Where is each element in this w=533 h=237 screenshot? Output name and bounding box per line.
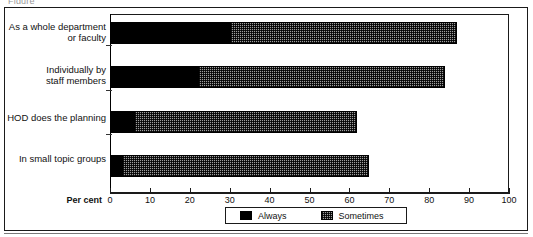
value-tick-label-40: 40 — [257, 195, 283, 205]
legend-swatch-sometimes-icon — [321, 211, 333, 220]
legend-label-always: Always — [258, 211, 287, 221]
value-tick-label-50: 50 — [297, 195, 323, 205]
table-row[interactable] — [110, 22, 457, 44]
value-tick-label-10: 10 — [137, 195, 163, 205]
value-tick-label-90: 90 — [456, 195, 482, 205]
bar-segment-sometimes[interactable] — [230, 22, 457, 44]
bar-segment-always[interactable] — [110, 111, 134, 133]
value-tick-label-60: 60 — [336, 195, 362, 205]
legend-label-sometimes: Sometimes — [339, 211, 384, 221]
bar-segment-sometimes[interactable] — [134, 111, 357, 133]
value-tick-90 — [469, 188, 470, 194]
bars-layer — [110, 14, 509, 193]
value-tick-60 — [349, 188, 350, 194]
value-tick-label-0: 0 — [97, 195, 123, 205]
value-tick-label-70: 70 — [376, 195, 402, 205]
category-label-1: Individually by staff members — [0, 64, 106, 86]
bar-segment-always[interactable] — [110, 155, 122, 177]
table-row[interactable] — [110, 66, 445, 88]
bar-segment-sometimes[interactable] — [198, 66, 445, 88]
value-tick-label-100: 100 — [496, 195, 522, 205]
value-tick-30 — [230, 188, 231, 194]
value-tick-20 — [190, 188, 191, 194]
clipped-caption: Figure — [8, 0, 35, 4]
bar-segment-always[interactable] — [110, 66, 198, 88]
value-tick-70 — [389, 188, 390, 194]
figure-bottom-rule — [4, 233, 528, 234]
value-tick-label-80: 80 — [416, 195, 442, 205]
category-label-3: In small topic groups — [0, 153, 106, 164]
value-tick-50 — [310, 188, 311, 194]
value-tick-10 — [150, 188, 151, 194]
bar-segment-always[interactable] — [110, 22, 230, 44]
axis-title: Per cent — [48, 195, 102, 205]
figure-screenshot: Figure As a whole department or faculty … — [0, 0, 533, 237]
category-label-0: As a whole department or faculty — [0, 21, 106, 43]
value-tick-40 — [270, 188, 271, 194]
category-axis-labels: As a whole department or faculty Individ… — [0, 14, 106, 193]
value-tick-100 — [509, 188, 510, 194]
value-tick-0 — [110, 188, 111, 194]
value-tick-label-30: 30 — [217, 195, 243, 205]
table-row[interactable] — [110, 111, 357, 133]
legend-item-always[interactable]: Always — [240, 211, 287, 221]
value-tick-label-20: 20 — [177, 195, 203, 205]
legend-swatch-always-icon — [240, 211, 252, 220]
bar-segment-sometimes[interactable] — [122, 155, 369, 177]
chart-legend: Always Sometimes — [225, 207, 407, 224]
category-label-2: HOD does the planning — [0, 112, 106, 123]
value-tick-80 — [429, 188, 430, 194]
table-row[interactable] — [110, 155, 369, 177]
legend-item-sometimes[interactable]: Sometimes — [321, 211, 384, 221]
